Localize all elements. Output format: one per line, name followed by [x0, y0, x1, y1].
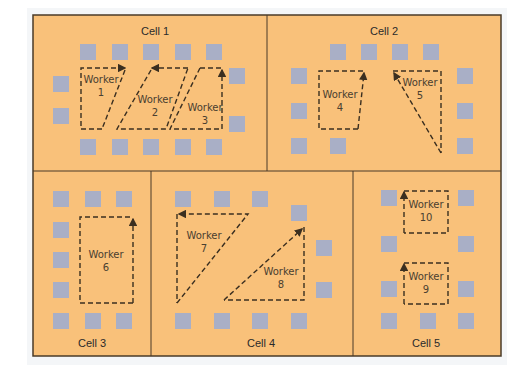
workstation — [116, 191, 132, 207]
workstation — [80, 44, 96, 60]
workstation — [214, 313, 230, 329]
worker-1-label: Worker — [83, 74, 119, 85]
cell-label: Cell 5 — [412, 337, 440, 349]
workstation — [53, 191, 69, 207]
workstation — [252, 313, 268, 329]
workstation — [175, 313, 191, 329]
workstation — [143, 44, 159, 60]
workstation — [214, 191, 230, 207]
workstation — [330, 44, 346, 60]
worker-4-label: Worker — [322, 89, 358, 100]
worker-8-number: 8 — [278, 279, 284, 290]
workstation — [381, 313, 397, 329]
workstation — [458, 236, 474, 252]
worker-9-label: Worker — [408, 271, 444, 282]
workstation — [392, 44, 408, 60]
workstation — [291, 313, 307, 329]
worker-3-number: 3 — [202, 115, 208, 126]
workstation — [252, 191, 268, 207]
workstation — [112, 44, 128, 60]
cell-label: Cell 4 — [247, 337, 275, 349]
workstation — [381, 236, 397, 252]
workstation — [291, 205, 307, 221]
worker-2-number: 2 — [152, 107, 158, 118]
worker-1-number: 1 — [98, 87, 104, 98]
workstation — [175, 191, 191, 207]
workstation — [206, 139, 222, 155]
workstation — [458, 313, 474, 329]
worker-8-label: Worker — [263, 266, 299, 277]
workstation — [175, 139, 191, 155]
workstation — [116, 313, 132, 329]
workstation — [206, 44, 222, 60]
workstation — [316, 240, 332, 256]
worker-10-number: 10 — [420, 212, 433, 223]
worker-2-label: Worker — [137, 94, 173, 105]
cell-layout-diagram: Cell 1 Worker 1 Worker 2 Wo — [0, 0, 518, 376]
workstation — [53, 108, 69, 124]
workstation — [457, 103, 473, 119]
workstation — [420, 313, 436, 329]
worker-5-number: 5 — [417, 90, 423, 101]
workstation — [85, 191, 101, 207]
worker-9-number: 9 — [423, 284, 429, 295]
cell-label: Cell 3 — [78, 337, 106, 349]
workstation — [381, 190, 397, 206]
workstation — [53, 282, 69, 298]
worker-7-label: Worker — [186, 230, 222, 241]
workstation — [112, 139, 128, 155]
worker-6-number: 6 — [103, 262, 109, 273]
workstation — [175, 44, 191, 60]
worker-5-label: Worker — [402, 77, 438, 88]
workstation — [53, 76, 69, 92]
workstation — [330, 138, 346, 154]
workstation — [53, 252, 69, 268]
workstation — [457, 68, 473, 84]
workstation — [53, 222, 69, 238]
workstation — [143, 139, 159, 155]
workstation — [229, 68, 245, 84]
workstation — [85, 313, 101, 329]
workstation — [316, 282, 332, 298]
workstation — [291, 103, 307, 119]
workstation — [291, 68, 307, 84]
worker-6-label: Worker — [88, 249, 124, 260]
workstation — [458, 190, 474, 206]
workstation — [291, 138, 307, 154]
workstation — [361, 44, 377, 60]
workstation — [423, 44, 439, 60]
worker-10-label: Worker — [408, 199, 444, 210]
workstation — [53, 313, 69, 329]
workstation — [457, 138, 473, 154]
workstation — [80, 139, 96, 155]
cell-label: Cell 1 — [141, 25, 169, 37]
worker-3-label: Worker — [187, 102, 223, 113]
worker-4-number: 4 — [337, 102, 343, 113]
workstation — [458, 281, 474, 297]
cell-label: Cell 2 — [370, 25, 398, 37]
workstation — [229, 116, 245, 132]
worker-7-number: 7 — [201, 243, 207, 254]
workstation — [381, 281, 397, 297]
